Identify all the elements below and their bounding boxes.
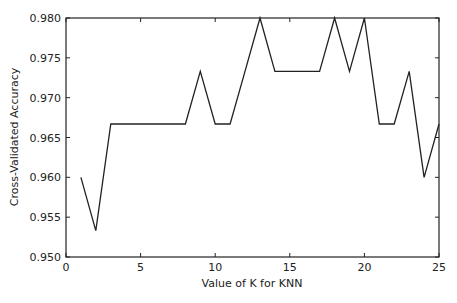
y-tick-label: 0.965 [30, 132, 62, 145]
y-tick-label: 0.950 [30, 251, 62, 264]
x-axis-label: Value of K for KNN [202, 277, 303, 290]
x-tick-label: 10 [208, 261, 222, 274]
x-tick-label: 25 [432, 261, 446, 274]
plot-frame [66, 18, 439, 257]
y-axis-label: Cross-Validated Accuracy [8, 67, 21, 206]
x-tick-label: 15 [283, 261, 297, 274]
y-tick-label: 0.955 [30, 211, 62, 224]
accuracy-line [81, 18, 439, 231]
x-tick-label: 20 [357, 261, 371, 274]
y-tick-label: 0.980 [30, 12, 62, 25]
y-tick-label: 0.960 [30, 171, 62, 184]
y-axis-ticks: 0.9500.9550.9600.9650.9700.9750.980 [30, 12, 440, 264]
x-tick-label: 5 [137, 261, 144, 274]
y-tick-label: 0.970 [30, 92, 62, 105]
x-tick-label: 0 [63, 261, 70, 274]
line-chart: 0.9500.9550.9600.9650.9700.9750.980 0510… [0, 0, 457, 303]
x-axis-ticks: 0510152025 [63, 18, 447, 274]
y-tick-label: 0.975 [30, 52, 62, 65]
